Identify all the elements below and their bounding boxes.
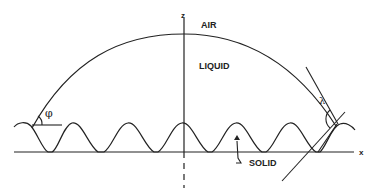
z-axis-label: z [181,11,185,20]
x-axis-label: x [359,148,364,157]
solid-leader-arrowhead [234,135,240,140]
liquid-label: LIQUID [199,61,230,71]
tangent-line-solid [282,112,345,181]
air-label: AIR [201,20,217,30]
phi-symbol: φ [45,107,53,120]
droplet-on-rough-surface-diagram: z x AIR LIQUID SOLID φ λ [0,0,374,192]
solid-label: SOLID [249,158,277,168]
lambda-symbol: λ [319,95,326,106]
